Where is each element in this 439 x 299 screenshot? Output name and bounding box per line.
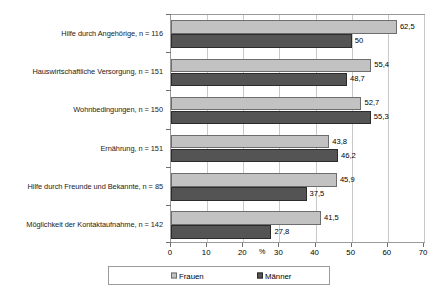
value-axis-labels: 010203040506070	[150, 248, 439, 260]
bar-männer-1	[171, 73, 347, 87]
gridline-70	[424, 15, 425, 242]
bar-frauen-0	[171, 20, 397, 34]
bar-frauen-5	[171, 211, 321, 225]
bar-männer-2	[171, 111, 371, 125]
value-label-männer-4: 37,5	[310, 188, 325, 197]
chart-legend: FrauenMänner	[108, 266, 330, 285]
value-tick-10	[206, 243, 207, 247]
value-tick-label-70: 70	[419, 248, 428, 257]
plot-area	[170, 14, 425, 243]
legend-swatch-frauen-icon	[171, 273, 177, 279]
percent-axis-label: %	[259, 247, 265, 256]
value-label-frauen-0: 62,5	[400, 22, 415, 31]
value-label-männer-0: 50	[355, 36, 363, 45]
value-tick-30	[278, 243, 279, 247]
bar-frauen-1	[171, 59, 371, 73]
value-label-männer-1: 48,7	[350, 74, 365, 83]
category-label-3: Ernährung, n = 151	[100, 143, 163, 152]
value-tick-70	[423, 243, 424, 247]
legend-swatch-männer-icon	[257, 273, 263, 279]
legend-label-männer: Männer	[265, 271, 291, 280]
category-tick-5	[166, 205, 171, 206]
value-tick-40	[315, 243, 316, 247]
value-tick-20	[242, 243, 243, 247]
category-tick-0	[166, 14, 171, 15]
value-label-männer-3: 46,2	[341, 150, 356, 159]
value-tick-label-60: 60	[383, 248, 392, 257]
legend-entry-frauen: Frauen	[171, 271, 204, 280]
value-label-frauen-3: 43,8	[332, 136, 347, 145]
bar-frauen-4	[171, 173, 337, 187]
bar-männer-5	[171, 225, 271, 239]
category-label-0: Hilfe durch Angehörige, n = 116	[61, 29, 163, 38]
bar-männer-3	[171, 149, 338, 163]
value-label-frauen-2: 52,7	[364, 98, 379, 107]
category-label-4: Hilfe durch Freunde und Bekannte, n = 85	[28, 181, 163, 190]
bar-frauen-2	[171, 97, 361, 111]
value-tick-label-30: 30	[274, 248, 283, 257]
category-axis-ticks	[166, 14, 171, 243]
value-tick-label-40: 40	[310, 248, 319, 257]
category-tick-4	[166, 167, 171, 168]
value-tick-label-20: 20	[238, 248, 247, 257]
value-label-frauen-1: 55,4	[374, 60, 389, 69]
value-tick-50	[351, 243, 352, 247]
value-label-frauen-5: 41,5	[324, 212, 339, 221]
bar-männer-4	[171, 187, 307, 201]
value-label-männer-5: 27,8	[274, 226, 289, 235]
category-label-1: Hauswirtschaftliche Versorgung, n = 151	[32, 67, 163, 76]
bar-frauen-3	[171, 135, 329, 149]
value-tick-0	[170, 243, 171, 247]
category-tick-1	[166, 52, 171, 53]
value-label-männer-2: 55,3	[374, 112, 389, 121]
value-tick-label-10: 10	[202, 248, 211, 257]
value-tick-label-50: 50	[346, 248, 355, 257]
category-label-2: Wohnbedingungen, n = 150	[73, 105, 163, 114]
value-tick-60	[387, 243, 388, 247]
category-axis-labels: Hilfe durch Angehörige, n = 116Hauswirts…	[0, 14, 167, 243]
category-tick-3	[166, 129, 171, 130]
value-label-frauen-4: 45,9	[340, 174, 355, 183]
legend-label-frauen: Frauen	[179, 271, 204, 280]
category-tick-2	[166, 90, 171, 91]
category-label-5: Möglichkeit der Kontaktaufnahme, n = 142	[26, 219, 163, 228]
bar-chart: Hilfe durch Angehörige, n = 116Hauswirts…	[0, 0, 439, 299]
bar-series-container	[171, 15, 424, 242]
value-tick-label-0: 0	[168, 248, 172, 257]
legend-entry-männer: Männer	[257, 271, 291, 280]
bar-männer-0	[171, 34, 352, 48]
